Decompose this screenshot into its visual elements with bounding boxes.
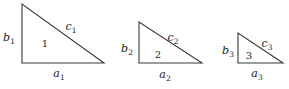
- triangle-2-number-label: 2: [155, 49, 161, 60]
- triangle-3-bottom-leg-label: a3: [251, 67, 263, 82]
- triangle-2-bottom-leg-label: a2: [159, 68, 171, 83]
- triangle-3-number-label: 3: [246, 50, 252, 61]
- similar-triangles-figure: 1b1c1a12b2c2a23b3c3a3: [0, 0, 289, 89]
- triangle-3-hypotenuse-label: c3: [262, 37, 273, 52]
- triangle-2-left-leg-label: b2: [121, 42, 133, 57]
- triangle-2-hypotenuse-label: c2: [168, 31, 179, 46]
- triangle-1-hypotenuse-label: c1: [66, 20, 77, 35]
- triangle-1-number-label: 1: [42, 38, 48, 49]
- figure-svg: 1b1c1a12b2c2a23b3c3a3: [0, 0, 289, 89]
- triangle-1-outline: [22, 4, 104, 63]
- triangle-3-outline: [238, 33, 283, 63]
- triangle-1-left-leg-label: b1: [3, 31, 15, 46]
- triangle-3-left-leg-label: b3: [222, 44, 234, 59]
- triangle-1-bottom-leg-label: a1: [53, 67, 64, 82]
